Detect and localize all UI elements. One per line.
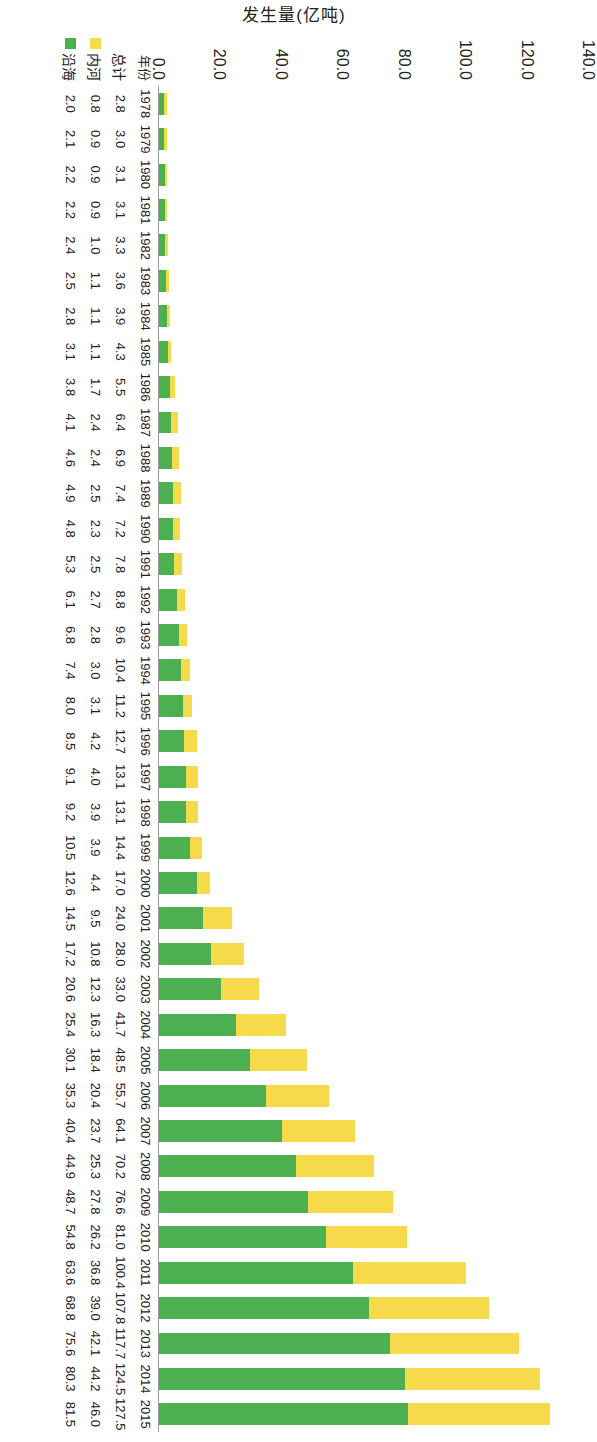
bar-segment-coastal[interactable]: [158, 1120, 282, 1142]
bar-slot[interactable]: [158, 1078, 588, 1113]
bar-segment-coastal[interactable]: [158, 270, 166, 292]
bar-segment-inland[interactable]: [266, 1085, 329, 1107]
bar-segment-coastal[interactable]: [158, 766, 186, 788]
bar-slot[interactable]: [158, 511, 588, 546]
bar-segment-inland[interactable]: [164, 128, 167, 150]
bar-slot[interactable]: [158, 794, 588, 829]
bar-slot[interactable]: [158, 476, 588, 511]
bar-slot[interactable]: [158, 546, 588, 581]
bar-slot[interactable]: [158, 334, 588, 369]
bar-segment-coastal[interactable]: [158, 164, 165, 186]
stacked-bar[interactable]: [158, 93, 167, 115]
stacked-bar[interactable]: [158, 199, 168, 221]
stacked-bar[interactable]: [158, 589, 185, 611]
bar-segment-inland[interactable]: [186, 766, 198, 788]
bar-slot[interactable]: [158, 972, 588, 1007]
bar-segment-coastal[interactable]: [158, 1155, 296, 1177]
bar-segment-inland[interactable]: [203, 907, 232, 929]
bar-segment-coastal[interactable]: [158, 553, 174, 575]
stacked-bar[interactable]: [158, 1085, 329, 1107]
bar-segment-coastal[interactable]: [158, 589, 177, 611]
bar-slot[interactable]: [158, 299, 588, 334]
bar-slot[interactable]: [158, 688, 588, 723]
bar-segment-inland[interactable]: [282, 1120, 355, 1142]
stacked-bar[interactable]: [158, 1049, 307, 1071]
bar-segment-inland[interactable]: [173, 482, 181, 504]
bar-slot[interactable]: [158, 901, 588, 936]
bar-segment-inland[interactable]: [221, 978, 259, 1000]
bar-segment-coastal[interactable]: [158, 801, 186, 823]
bar-slot[interactable]: [158, 192, 588, 227]
stacked-bar[interactable]: [158, 1262, 466, 1284]
bar-slot[interactable]: [158, 582, 588, 617]
bar-segment-coastal[interactable]: [158, 412, 171, 434]
bar-slot[interactable]: [158, 369, 588, 404]
stacked-bar[interactable]: [158, 1297, 489, 1319]
stacked-bar[interactable]: [158, 1403, 550, 1425]
bar-segment-coastal[interactable]: [158, 1049, 250, 1071]
bar-slot[interactable]: [158, 228, 588, 263]
stacked-bar[interactable]: [158, 1014, 286, 1036]
bar-slot[interactable]: [158, 405, 588, 440]
stacked-bar[interactable]: [158, 341, 171, 363]
stacked-bar[interactable]: [158, 128, 167, 150]
stacked-bar[interactable]: [158, 518, 180, 540]
stacked-bar[interactable]: [158, 695, 192, 717]
bar-segment-coastal[interactable]: [158, 518, 173, 540]
bar-segment-coastal[interactable]: [158, 341, 168, 363]
bar-slot[interactable]: [158, 724, 588, 759]
stacked-bar[interactable]: [158, 837, 202, 859]
bar-segment-coastal[interactable]: [158, 943, 211, 965]
bar-slot[interactable]: [158, 1113, 588, 1148]
bar-segment-inland[interactable]: [296, 1155, 374, 1177]
bar-segment-inland[interactable]: [181, 659, 190, 681]
bar-segment-coastal[interactable]: [158, 1297, 369, 1319]
bar-segment-inland[interactable]: [326, 1226, 406, 1248]
bar-segment-inland[interactable]: [166, 270, 169, 292]
bar-slot[interactable]: [158, 1042, 588, 1077]
stacked-bar[interactable]: [158, 376, 175, 398]
stacked-bar[interactable]: [158, 1368, 540, 1390]
stacked-bar[interactable]: [158, 907, 232, 929]
stacked-bar[interactable]: [158, 943, 244, 965]
bar-segment-coastal[interactable]: [158, 1403, 408, 1425]
bar-slot[interactable]: [158, 1184, 588, 1219]
bar-segment-inland[interactable]: [190, 837, 202, 859]
bar-slot[interactable]: [158, 759, 588, 794]
bar-slot[interactable]: [158, 1149, 588, 1184]
bar-segment-inland[interactable]: [408, 1403, 549, 1425]
bar-segment-coastal[interactable]: [158, 447, 172, 469]
bar-segment-coastal[interactable]: [158, 730, 184, 752]
stacked-bar[interactable]: [158, 730, 197, 752]
bar-segment-coastal[interactable]: [158, 1085, 266, 1107]
bar-slot[interactable]: [158, 1361, 588, 1396]
bar-segment-inland[interactable]: [172, 447, 179, 469]
bar-segment-coastal[interactable]: [158, 837, 190, 859]
bar-segment-coastal[interactable]: [158, 1333, 390, 1355]
bar-segment-coastal[interactable]: [158, 305, 167, 327]
stacked-bar[interactable]: [158, 447, 179, 469]
bar-segment-inland[interactable]: [405, 1368, 541, 1390]
bar-segment-inland[interactable]: [390, 1333, 519, 1355]
bar-segment-inland[interactable]: [168, 341, 171, 363]
bar-segment-coastal[interactable]: [158, 1368, 405, 1390]
bar-segment-inland[interactable]: [179, 624, 188, 646]
stacked-bar[interactable]: [158, 234, 168, 256]
bar-segment-inland[interactable]: [183, 695, 193, 717]
bar-segment-inland[interactable]: [165, 199, 168, 221]
bar-slot[interactable]: [158, 1397, 588, 1432]
bar-slot[interactable]: [158, 1255, 588, 1290]
bar-segment-inland[interactable]: [211, 943, 244, 965]
bar-segment-coastal[interactable]: [158, 624, 179, 646]
bar-segment-inland[interactable]: [167, 305, 170, 327]
bar-segment-inland[interactable]: [170, 376, 175, 398]
bar-slot[interactable]: [158, 1326, 588, 1361]
bar-slot[interactable]: [158, 1220, 588, 1255]
stacked-bar[interactable]: [158, 1226, 407, 1248]
bar-segment-coastal[interactable]: [158, 978, 221, 1000]
bar-segment-coastal[interactable]: [158, 907, 203, 929]
bar-slot[interactable]: [158, 936, 588, 971]
stacked-bar[interactable]: [158, 624, 187, 646]
bar-segment-inland[interactable]: [174, 553, 182, 575]
bar-segment-inland[interactable]: [171, 412, 178, 434]
